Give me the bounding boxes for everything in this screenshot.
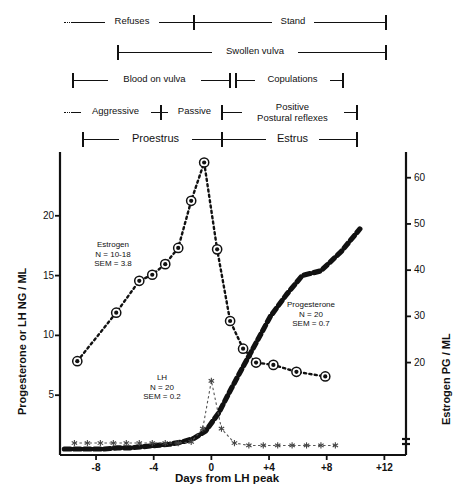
bar-label-line: Postural reflexes [245,113,341,124]
y-tick-label-left: 20 [30,210,54,221]
bar-label: Estrus [266,133,320,144]
bar-label-line: Passive [171,106,218,117]
y-tick-label-left: 15 [30,270,54,281]
x-tick-label: +8 [307,462,347,473]
y-axis-right-label: Estrogen PG / ML [440,333,452,425]
bar-label: Aggressive [81,106,151,117]
x-tick-label: +12 [364,462,404,473]
bar-segment-line [83,139,119,140]
annotation-line: LH [117,373,207,383]
estrogen-annotation: EstrogenN = 10-18SEM = 3.8 [68,240,158,269]
bar-end-cap [385,45,387,60]
bar-segment-line [64,22,72,23]
bar-segment-line [73,80,108,81]
estrogen-marker-dot [150,273,154,277]
lh-annotation: LHN = 20SEM = 0.2 [117,373,207,402]
bar-end-cap [356,132,358,147]
bar-segment-line [72,112,81,113]
estrogen-marker-dot [189,199,193,203]
y-tick-label-left: 10 [30,329,54,340]
bar-end-cap [342,73,344,88]
x-tick-label: 0 [191,462,231,473]
bar-label-line: Stand [275,16,311,27]
lh-marker-star [209,378,214,384]
bar-end-cap [82,132,84,147]
bar-end-cap [72,73,74,88]
x-tick-label: +4 [249,462,289,473]
estrogen-marker-dot [137,279,141,283]
bar-label: Passive [168,106,221,117]
y-tick-label-right: 30 [414,310,425,321]
bar-end-cap [229,73,231,88]
bar-end-cap [235,73,237,88]
bar-label-line: Refuses [108,16,155,27]
lh-marker-star [246,442,251,448]
bar-label-line: Swollen vulva [215,46,296,57]
estrogen-marker-dot [271,363,275,367]
lh-marker-star [219,426,224,432]
estrogen-marker-dot [202,160,206,164]
bar-segment-line [72,22,105,23]
lh-marker-star [98,440,103,446]
estrogen-marker-dot [323,374,327,378]
bar-segment-line [236,80,255,81]
bar-label-line: Positive [245,102,341,113]
annotation-line: N = 20 [117,383,207,393]
bar-segment-line [161,112,168,113]
estrogen-marker-dot [163,262,167,266]
y-tick-label-left: 5 [30,389,54,400]
x-axis-label: Days from LH peak [0,472,454,484]
bar-label: PositivePostural reflexes [242,102,344,123]
bar-segment-line [222,139,266,140]
estrogen-marker-dot [215,247,219,251]
annotation-line: Estrogen [68,240,158,250]
estrogen-marker-dot [176,246,180,250]
y-tick-label-right: 20 [414,357,425,368]
progesterone-annotation: ProgesteroneN = 20SEM = 0.7 [266,300,356,329]
annotation-line: SEM = 0.7 [266,319,356,329]
annotation-line: Progesterone [266,300,356,310]
bar-end-cap [385,15,387,30]
bar-label: Stand [272,16,314,27]
annotation-line: SEM = 3.8 [68,259,158,269]
bar-label: Blood on vulva [108,74,200,85]
y-axis-left-label: Progesterone or LH NG / ML [16,268,28,415]
estrogen-marker-dot [75,359,79,363]
estrogen-marker-dot [228,319,232,323]
row-blood-copulations: Blood on vulvaCopulations [0,67,454,93]
bar-end-cap [356,105,358,120]
bar-label: Refuses [105,16,158,27]
bar-label-line: Estrus [269,133,317,144]
x-tick-label: -8 [76,462,116,473]
y-tick-label-right: 50 [414,218,425,229]
bar-label: Proestrus [119,133,192,144]
bar-label: Copulations [255,74,331,85]
bar-segment-line [64,112,72,113]
estrogen-marker-dot [294,370,298,374]
y-tick-label-right: 40 [414,264,425,275]
bar-segment-line [313,139,357,140]
bar-label-line: Blood on vulva [111,74,197,85]
lh-marker-star [232,440,237,446]
annotation-line: N = 20 [266,310,356,320]
estrogen-marker-dot [241,347,245,351]
figure-root: RefusesStandSwollen vulvaBlood on vulvaC… [0,0,454,498]
bar-segment-line [153,22,194,23]
row-swollen-vulva: Swollen vulva [0,39,454,65]
bar-label-line: Proestrus [122,133,189,144]
chart-svg [0,150,454,498]
behavior-bars-panel: RefusesStandSwollen vulvaBlood on vulvaC… [0,0,454,150]
estrogen-marker-dot [254,360,258,364]
estrogen-line [77,162,325,376]
bar-segment-line [308,22,386,23]
y-tick-label-right: 60 [414,172,425,183]
chart-plot-area: Progesterone or LH NG / ML Estrogen PG /… [0,150,454,498]
row-refuses-stand: RefusesStand [0,9,454,35]
bar-segment-line [118,52,212,53]
annotation-line: N = 10-18 [68,250,158,260]
x-tick-label: -4 [134,462,174,473]
estrogen-marker-dot [114,311,118,315]
bar-segment-line [222,112,242,113]
bar-segment-line [292,52,386,53]
bar-label: Swollen vulva [212,46,299,57]
